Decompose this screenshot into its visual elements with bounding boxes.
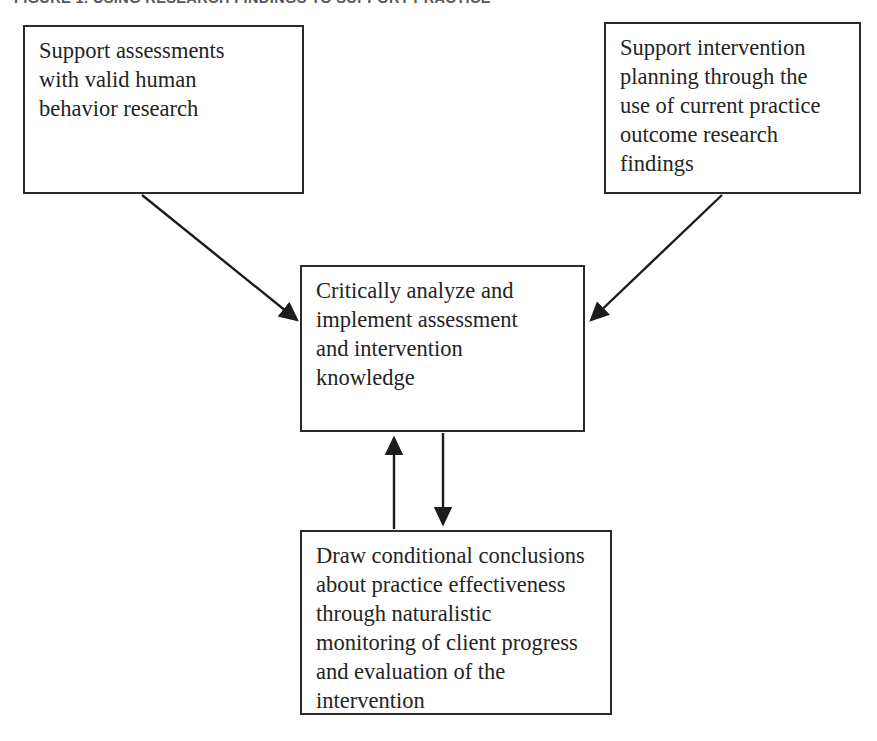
arrow-intervention-to-analyze [591, 195, 722, 320]
node-support-intervention[interactable]: Support intervention planning through th… [604, 22, 861, 194]
node-critically-analyze[interactable]: Critically analyze and implement assessm… [300, 265, 585, 432]
node-draw-conclusions[interactable]: Draw conditional conclusions about pract… [300, 530, 612, 715]
node-support-intervention-label: Support intervention planning through th… [620, 33, 851, 178]
node-support-assessments[interactable]: Support assessments with valid human beh… [23, 25, 304, 194]
figure-page: Figure 1. Using Research Findings to Sup… [0, 0, 877, 741]
node-support-assessments-label: Support assessments with valid human beh… [39, 36, 294, 123]
arrow-assessment-to-analyze [142, 195, 297, 320]
node-critically-analyze-label: Critically analyze and implement assessm… [316, 276, 575, 392]
node-draw-conclusions-label: Draw conditional conclusions about pract… [316, 541, 602, 715]
figure-caption: Figure 1. Using Research Findings to Sup… [14, 0, 834, 6]
